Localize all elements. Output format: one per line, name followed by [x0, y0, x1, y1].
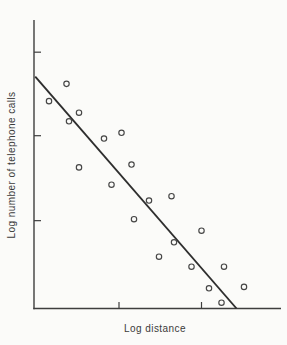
- regression-line: [35, 77, 236, 309]
- data-point: [76, 110, 81, 115]
- data-point: [206, 286, 211, 291]
- data-point: [101, 136, 106, 141]
- scatter-plot-figure: Log distance Log number of telephone cal…: [0, 0, 287, 345]
- x-axis-label: Log distance: [124, 323, 186, 334]
- data-point: [76, 165, 81, 170]
- data-point: [66, 119, 71, 124]
- data-point: [146, 198, 151, 203]
- data-point: [189, 264, 194, 269]
- data-point: [131, 217, 136, 222]
- x-axis-ticks: [119, 302, 202, 309]
- data-point: [199, 228, 204, 233]
- data-point: [64, 81, 69, 86]
- data-point: [109, 182, 114, 187]
- data-point: [119, 130, 124, 135]
- data-point: [156, 254, 161, 259]
- data-point: [169, 193, 174, 198]
- data-point: [221, 264, 226, 269]
- data-point: [171, 240, 176, 245]
- data-point: [46, 98, 51, 103]
- data-point: [129, 162, 134, 167]
- data-point: [219, 300, 224, 305]
- data-points: [46, 81, 246, 305]
- y-axis-label: Log number of telephone calls: [6, 91, 17, 238]
- data-point: [241, 284, 246, 289]
- plot-canvas: Log distance Log number of telephone cal…: [0, 0, 287, 345]
